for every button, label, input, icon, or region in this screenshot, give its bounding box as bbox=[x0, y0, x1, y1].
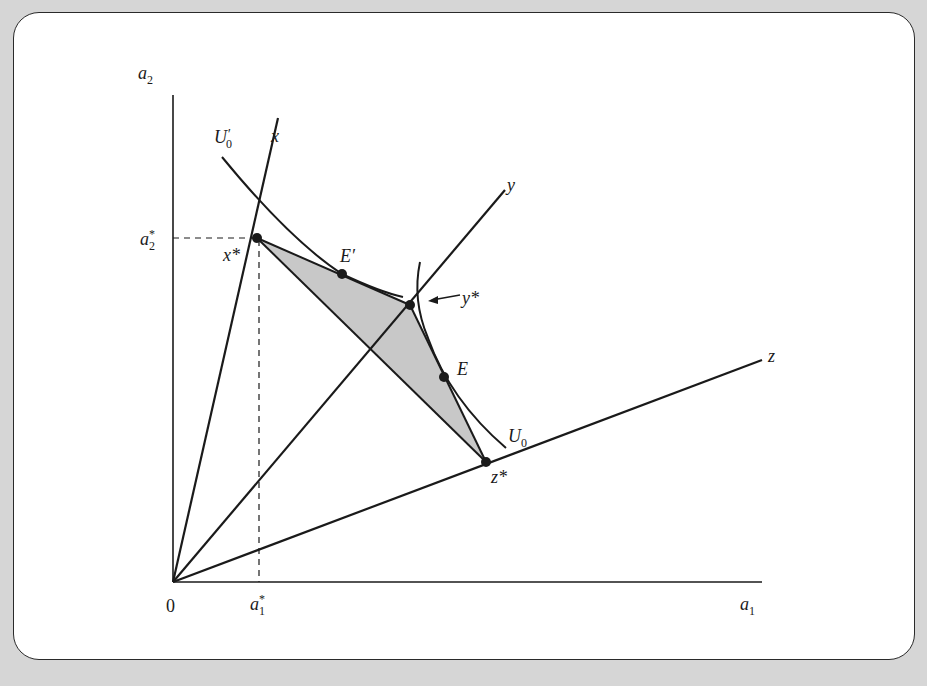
x-star-label: x* bbox=[223, 246, 240, 264]
y-star-label: y* bbox=[462, 289, 479, 307]
ray-z-label: z bbox=[768, 347, 775, 365]
ystar-arrowhead bbox=[428, 296, 438, 304]
z-star-label: z* bbox=[491, 468, 507, 486]
U0-label: U0 bbox=[508, 427, 527, 449]
origin-label: 0 bbox=[166, 597, 175, 615]
x-axis-label: a1 bbox=[740, 595, 755, 617]
a2-star-label: a*2 bbox=[140, 228, 155, 252]
y-axis-label: a2 bbox=[138, 64, 153, 86]
U0-prime-label: U′0 bbox=[214, 128, 232, 150]
ray-x-label: x bbox=[271, 127, 279, 145]
point-E-prime bbox=[337, 269, 347, 279]
point-z-star bbox=[481, 457, 491, 467]
ray-y-label: y bbox=[507, 176, 515, 194]
isoquant-diagram bbox=[0, 0, 927, 686]
point-y-star bbox=[405, 300, 415, 310]
ray-x bbox=[173, 118, 278, 582]
E-prime-label: E′ bbox=[340, 247, 355, 265]
a1-star-label: a*1 bbox=[250, 593, 265, 617]
E-label: E bbox=[457, 360, 468, 378]
point-x-star bbox=[252, 233, 262, 243]
ray-z bbox=[173, 360, 762, 582]
edge-xstar-zstar bbox=[257, 238, 486, 462]
point-E bbox=[439, 372, 449, 382]
